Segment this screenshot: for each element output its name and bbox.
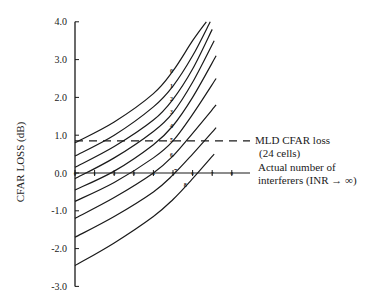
x-axis: 012345678 (74, 170, 250, 176)
y-axis-title: CFAR LOSS (dB) (14, 121, 27, 202)
curve-label-4: 4 (170, 123, 173, 129)
x-axis-title-line2: interferers (INR → ∞) (258, 174, 357, 187)
y-tick-label: 2.0 (55, 92, 68, 103)
curve-label-3: 3 (170, 109, 173, 115)
y-tick-label: -2.0 (51, 243, 67, 254)
curve-label-1: 1 (170, 83, 173, 89)
y-tick-label: 4.0 (55, 16, 68, 27)
curve-label-5: 5 (170, 137, 173, 143)
curve-label-7: 7 (174, 168, 177, 174)
y-tick-label: -1.0 (51, 205, 67, 216)
y-tick-label: 0.0 (55, 168, 68, 179)
x-axis-title-line1: Actual number of (258, 161, 336, 173)
curve-label-0: 0 (170, 68, 173, 74)
curve-7 (75, 128, 216, 238)
curve-6 (75, 105, 216, 218)
curve-label-6: 6 (170, 152, 173, 158)
mld-cells-label: (24 cells) (259, 147, 301, 160)
curve-0 (75, 22, 206, 143)
curve-5 (75, 79, 216, 202)
curve-3 (75, 41, 214, 179)
curve-label-2: 2 (170, 96, 173, 102)
y-tick-label: 3.0 (55, 54, 68, 65)
y-tick-label: -3.0 (51, 281, 67, 292)
y-tick-label: 1.0 (55, 130, 68, 141)
mld-label: MLD CFAR loss (255, 134, 330, 146)
y-axis: 4.03.02.01.00.0-1.0-2.0-3.0 (51, 16, 79, 292)
curve-4 (75, 56, 216, 190)
cfar-loss-chart: 4.03.02.01.00.0-1.0-2.0-3.0 012345678 01… (0, 0, 371, 305)
curve-label-8: 8 (184, 182, 187, 188)
curves: 012345678 (75, 22, 216, 266)
chart-canvas: 4.03.02.01.00.0-1.0-2.0-3.0 012345678 01… (0, 0, 371, 305)
